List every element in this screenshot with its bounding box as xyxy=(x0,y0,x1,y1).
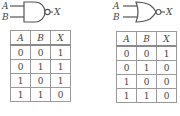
table-cell: 1 xyxy=(137,89,157,103)
table-row: 0 1 0 xyxy=(117,61,177,75)
nand-body-icon xyxy=(24,2,45,22)
nor-output-label: X xyxy=(165,7,173,17)
table-cell: 1 xyxy=(51,60,71,74)
nor-gate-symbol: A B X xyxy=(110,0,180,24)
table-cell: 0 xyxy=(31,74,51,88)
table-cell: 0 xyxy=(157,61,177,75)
table-cell: 1 xyxy=(117,89,137,103)
table-cell: 0 xyxy=(157,75,177,89)
table-row: 0 1 1 xyxy=(11,60,71,74)
column-header: X xyxy=(51,31,71,46)
nor-truth-table: A B X 0 0 1 0 1 0 1 0 0 1 1 0 xyxy=(116,31,177,103)
nand-truth-table: A B X 0 0 1 0 1 1 1 0 1 1 1 0 xyxy=(10,30,71,102)
inverter-bubble-icon xyxy=(45,9,50,14)
table-row: 0 0 1 xyxy=(117,46,177,61)
table-cell: 1 xyxy=(157,46,177,61)
column-header: A xyxy=(117,32,137,47)
nor-input-b-label: B xyxy=(112,12,120,22)
table-cell: 1 xyxy=(31,60,51,74)
nand-gate-symbol: A B X xyxy=(0,0,70,24)
column-header: A xyxy=(11,31,31,46)
table-cell: 1 xyxy=(117,75,137,89)
table-cell: 0 xyxy=(137,75,157,89)
table-cell: 0 xyxy=(31,45,51,60)
table-cell: 1 xyxy=(51,74,71,88)
table-cell: 0 xyxy=(157,89,177,103)
column-header: B xyxy=(137,32,157,47)
nor-body-icon xyxy=(136,2,156,22)
table-row: 1 0 0 xyxy=(117,75,177,89)
column-header: X xyxy=(157,32,177,47)
table-row: 1 1 0 xyxy=(117,89,177,103)
table-cell: 1 xyxy=(137,61,157,75)
table-cell: 1 xyxy=(51,45,71,60)
column-header: B xyxy=(31,31,51,46)
inverter-bubble-icon xyxy=(156,10,161,15)
table-cell: 1 xyxy=(11,74,31,88)
table-row: 1 1 0 xyxy=(11,88,71,102)
table-cell: 0 xyxy=(137,46,157,61)
table-cell: 1 xyxy=(31,88,51,102)
table-row: 1 0 1 xyxy=(11,74,71,88)
table-cell: 0 xyxy=(51,88,71,102)
nand-output-label: X xyxy=(53,7,61,17)
table-header-row: A B X xyxy=(11,31,71,46)
nand-input-b-label: B xyxy=(1,12,9,22)
table-cell: 0 xyxy=(11,45,31,60)
table-cell: 0 xyxy=(117,46,137,61)
table-cell: 0 xyxy=(11,60,31,74)
table-row: 0 0 1 xyxy=(11,45,71,60)
table-cell: 1 xyxy=(11,88,31,102)
nor-input-a-label: A xyxy=(112,1,120,11)
table-cell: 0 xyxy=(117,61,137,75)
nand-input-a-label: A xyxy=(1,1,9,11)
table-header-row: A B X xyxy=(117,32,177,47)
